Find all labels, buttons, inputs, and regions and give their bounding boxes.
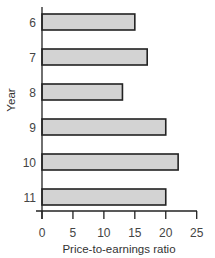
x-tick-label: 25 [190,226,204,240]
bar-year-10 [42,154,178,170]
y-tick-label: 6 [29,16,36,30]
bar-year-7 [42,49,147,65]
y-tick-label: 7 [29,51,36,65]
x-tick-label: 15 [128,226,142,240]
x-axis-title: Price-to-earnings ratio [62,243,175,255]
x-tick-label: 20 [159,226,173,240]
bar-year-11 [42,189,166,205]
bar-year-6 [42,14,135,30]
x-tick-label: 0 [39,226,46,240]
y-tick-label: 10 [23,156,37,170]
bar-chart: 67891011 0510152025 Year Price-to-earnin… [0,0,215,258]
y-tick-labels: 67891011 [23,16,37,205]
x-ticks-group: 0510152025 [39,211,204,240]
y-tick-label: 8 [29,86,36,100]
y-tick-label: 9 [29,121,36,135]
y-axis-title: Year [5,88,17,111]
bar-year-9 [42,119,166,135]
bars-group [42,14,178,205]
x-tick-label: 5 [70,226,77,240]
bar-year-8 [42,84,122,100]
y-tick-label: 11 [24,191,37,205]
x-tick-label: 10 [97,226,111,240]
